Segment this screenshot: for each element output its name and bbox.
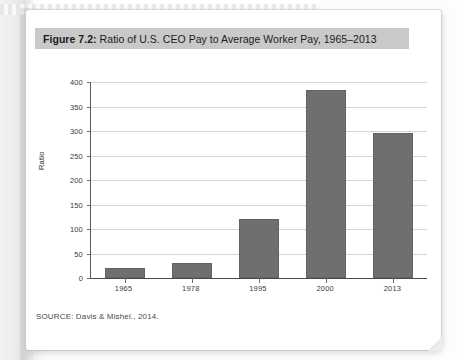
y-axis-tick-mark [87, 229, 91, 230]
y-axis-tick-mark [87, 156, 91, 157]
bar-chart: Ratio 050100150200250300350400 196519781… [35, 62, 433, 302]
gridline [91, 107, 427, 108]
y-axis-tick-mark [87, 278, 91, 279]
y-axis-tick-mark [87, 254, 91, 255]
y-axis-tick-mark [87, 82, 91, 83]
source-note: SOURCE: Davis & Mishel., 2014. [36, 312, 159, 321]
y-axis-tick-label: 150 [70, 200, 83, 209]
bar [373, 133, 413, 278]
bar [239, 219, 279, 278]
y-axis-tick-mark [87, 180, 91, 181]
figure-number-label: Figure 7.2: [43, 33, 97, 45]
figure-title: Figure 7.2: Ratio of U.S. CEO Pay to Ave… [35, 33, 377, 45]
y-axis-tick-label: 0 [79, 274, 83, 283]
y-axis-tick-label: 200 [70, 176, 83, 185]
y-axis-tick-mark [87, 107, 91, 108]
bar [105, 268, 145, 278]
x-axis-tick-mark [125, 278, 126, 283]
y-axis-tick-label: 400 [70, 78, 83, 87]
x-axis-tick-label: 1965 [115, 284, 133, 293]
x-axis-tick-label: 1995 [249, 284, 267, 293]
gridline [91, 82, 427, 83]
page-corner-fold [426, 335, 442, 351]
x-axis-tick-mark [192, 278, 193, 283]
x-axis-tick-mark [259, 278, 260, 283]
bar [306, 90, 346, 278]
x-axis-tick-label: 2013 [384, 284, 402, 293]
figure-page-card: Figure 7.2: Ratio of U.S. CEO Pay to Ave… [26, 10, 441, 350]
y-axis-tick-label: 250 [70, 151, 83, 160]
gridline [91, 131, 427, 132]
x-axis-tick-mark [326, 278, 327, 283]
y-axis-tick-labels: 050100150200250300350400 [57, 82, 83, 278]
y-axis-tick-mark [87, 205, 91, 206]
y-axis-title: Ratio [37, 110, 46, 170]
x-axis-tick-mark [393, 278, 394, 283]
y-axis-tick-label: 350 [70, 102, 83, 111]
x-axis-tick-label: 1978 [182, 284, 200, 293]
y-axis-tick-label: 100 [70, 225, 83, 234]
x-axis-tick-label: 2000 [316, 284, 334, 293]
bar [172, 263, 212, 278]
plot-area [90, 82, 427, 279]
figure-title-band: Figure 7.2: Ratio of U.S. CEO Pay to Ave… [35, 28, 409, 49]
y-axis-tick-label: 50 [74, 249, 83, 258]
figure-caption-text: Ratio of U.S. CEO Pay to Average Worker … [97, 33, 377, 45]
y-axis-tick-mark [87, 131, 91, 132]
y-axis-tick-label: 300 [70, 127, 83, 136]
